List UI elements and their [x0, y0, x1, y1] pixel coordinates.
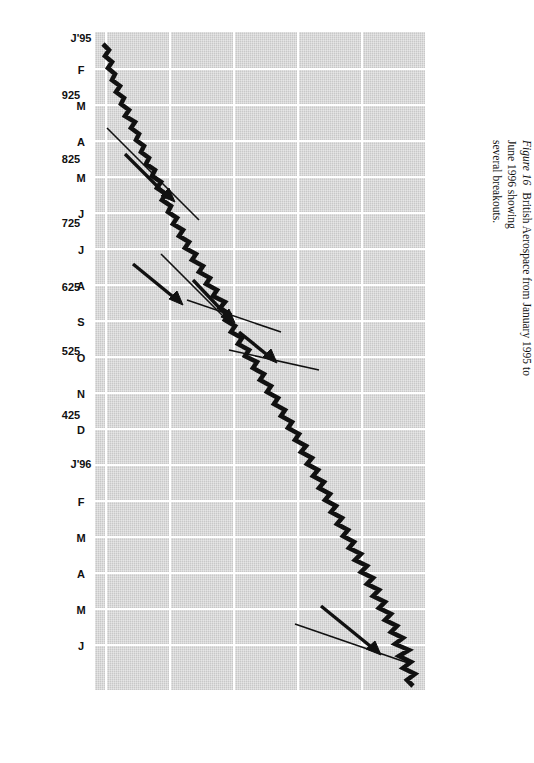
plot-area — [95, 32, 425, 690]
xtick-label: M — [68, 532, 94, 544]
xtick-label: J'95 — [68, 32, 94, 44]
breakout-arrow-1 — [125, 154, 175, 202]
figure-caption: Figure 16British Aerospace from January … — [488, 140, 534, 390]
xtick-label: F — [68, 496, 94, 508]
xtick-label: S — [68, 316, 94, 328]
xtick-label: M — [68, 172, 94, 184]
xtick-label: J — [68, 640, 94, 652]
figure-number: Figure 16 — [521, 140, 533, 185]
ytick-label: 625 — [56, 281, 86, 293]
ytick-label: 425 — [56, 409, 86, 421]
xtick-label: A — [68, 136, 94, 148]
ytick-label: 725 — [56, 217, 86, 229]
xtick-label: A — [68, 568, 94, 580]
price-series-svg — [95, 32, 425, 690]
ytick-label: 525 — [56, 345, 86, 357]
xtick-label: M — [68, 100, 94, 112]
breakout-arrow-5 — [321, 606, 381, 655]
xtick-label: J — [68, 244, 94, 256]
price-line — [103, 44, 415, 686]
ytick-label: 925 — [56, 89, 86, 101]
figure-caption-line-2: several breakouts. — [491, 140, 503, 223]
xtick-label: F — [68, 64, 94, 76]
trendline-1 — [107, 128, 199, 220]
xtick-label: J'96 — [66, 458, 96, 470]
xtick-label: D — [68, 424, 94, 436]
breakout-arrow-2 — [133, 264, 183, 305]
xtick-label: M — [68, 604, 94, 616]
xtick-label: N — [68, 388, 94, 400]
chart-stage: J'95 F M A M J J A S O N D J'96 F M A M … — [36, 32, 425, 690]
ytick-label: 825 — [56, 153, 86, 165]
